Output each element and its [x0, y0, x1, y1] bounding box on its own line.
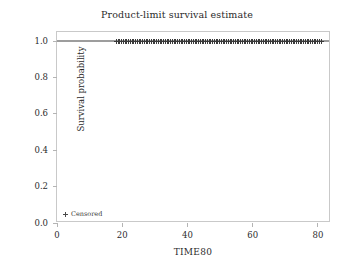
- x-tick-mark: [252, 223, 253, 227]
- legend-label-censored: Censored: [71, 210, 102, 218]
- plot-area: Survival probability 0.00.20.40.60.81.0 …: [56, 31, 330, 222]
- x-tick-label: 40: [167, 230, 207, 240]
- chart-title: Product-limit survival estimate: [0, 9, 354, 20]
- censor-mark: [319, 39, 324, 44]
- plot-inner: [57, 32, 329, 221]
- y-tick-label: 0.4: [34, 145, 48, 155]
- x-tick-mark: [317, 223, 318, 227]
- x-tick-label: 60: [233, 230, 273, 240]
- y-tick-label: 0.0: [34, 218, 48, 228]
- y-tick-label: 0.8: [34, 72, 48, 82]
- x-axis-label: TIME80: [56, 247, 330, 257]
- x-tick-mark: [187, 223, 188, 227]
- y-tick-label: 0.6: [34, 108, 48, 118]
- x-tick-label: 20: [102, 230, 142, 240]
- censor-marks-layer: [57, 32, 329, 221]
- survival-plot-figure: Product-limit survival estimate Survival…: [0, 0, 354, 268]
- legend: Censored: [63, 210, 102, 218]
- y-tick-label: 0.2: [34, 181, 48, 191]
- y-tick-label: 1.0: [34, 36, 48, 46]
- x-tick-label: 0: [37, 230, 77, 240]
- x-tick-mark: [122, 223, 123, 227]
- x-tick-label: 80: [298, 230, 338, 240]
- x-tick-mark: [57, 223, 58, 227]
- censored-marker-icon: [63, 212, 68, 217]
